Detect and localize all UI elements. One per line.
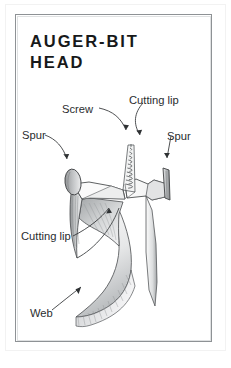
label-spur-right: Spur [167,130,191,143]
label-screw: Screw [62,103,93,116]
label-cutting-lip-bottom: Cutting lip [21,230,71,243]
bit-body-group [63,144,170,327]
label-cutting-lip-top: Cutting lip [129,94,179,107]
leader-screw [99,108,126,130]
shank-right-column [146,196,157,306]
label-web: Web [30,307,53,320]
screw-point [123,144,135,192]
figure-page: AUGER-BIT HEAD [0,0,231,368]
label-spur-left: Spur [22,129,46,142]
leader-spur-left [45,135,67,159]
auger-bit-illustration [15,14,212,342]
